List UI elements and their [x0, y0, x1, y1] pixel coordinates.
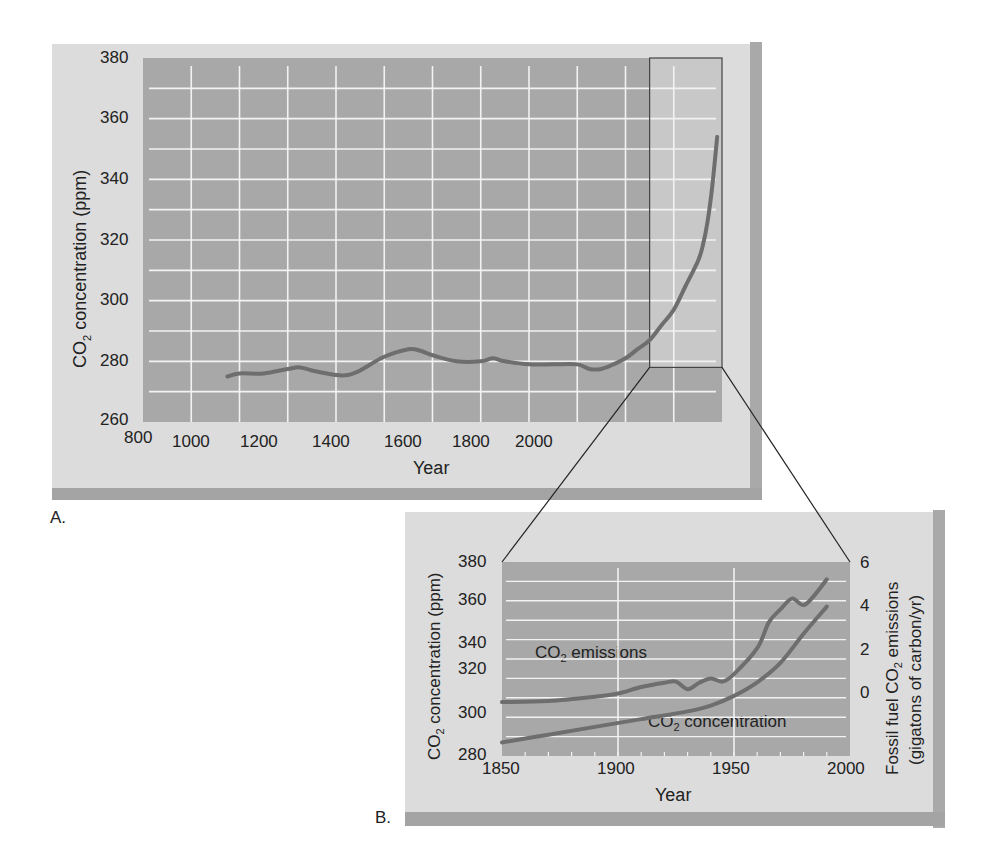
chart-overlay: [0, 0, 995, 862]
zoom-connector-right: [722, 367, 850, 562]
co2-concentration-line-b: [502, 607, 827, 743]
zoom-connector-left: [502, 367, 650, 562]
highlight-region: [650, 58, 722, 367]
co2-concentration-line-a: [227, 137, 717, 377]
co2-emissions-line-b: [502, 579, 827, 702]
